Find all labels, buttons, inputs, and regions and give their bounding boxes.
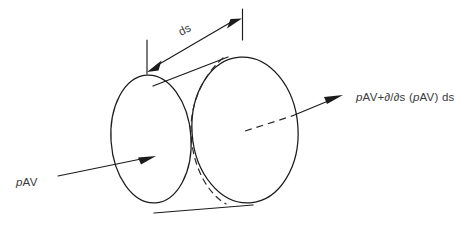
dimension-arrowhead-right	[227, 19, 242, 29]
outflow-arrowhead	[324, 95, 343, 104]
inflow-label-av: AV	[23, 176, 38, 188]
cylinder-body	[153, 57, 253, 213]
inflow-arrowhead	[138, 156, 156, 165]
dimension-group: ds	[147, 9, 243, 74]
downstream-face-ellipse	[187, 53, 303, 206]
inflow-arrow-group	[58, 156, 156, 176]
outflow-label-av-plus: AV+	[363, 91, 385, 103]
dimension-label-ds: ds	[176, 21, 193, 37]
figure-container: ds pAV pAV+∂/∂	[0, 0, 475, 232]
inflow-label: pAV	[15, 176, 38, 188]
hidden-back-arc-group	[191, 58, 226, 204]
dimension-arrowhead-left	[147, 61, 162, 73]
inflow-arrow-shaft	[58, 158, 146, 176]
outflow-label-tail: AV) ds	[420, 91, 455, 103]
upstream-face-ellipse	[107, 72, 196, 205]
outflow-label-s-paren: s (	[400, 91, 413, 103]
hidden-back-arc	[191, 58, 226, 204]
upstream-face-group	[107, 72, 196, 205]
downstream-face-group	[187, 53, 303, 206]
cylinder-bottom-edge	[154, 205, 253, 213]
control-volume-diagram: ds pAV pAV+∂/∂	[0, 0, 475, 232]
outflow-arrow-dashed-segment	[245, 116, 292, 131]
outflow-label: pAV+∂/∂s (pAV) ds	[355, 91, 455, 103]
outflow-arrow-group	[245, 95, 343, 131]
